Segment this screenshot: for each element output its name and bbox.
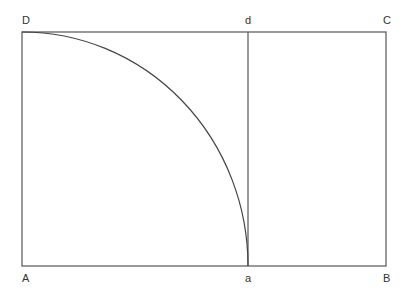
label-A: A: [22, 272, 30, 284]
label-C: C: [383, 14, 391, 26]
label-a: a: [245, 272, 252, 284]
rectangle-abcd: [22, 32, 386, 266]
label-d: d: [245, 14, 251, 26]
diagram-canvas: D d C A a B: [0, 0, 407, 296]
arc-da: [22, 32, 248, 266]
label-D: D: [22, 14, 30, 26]
label-B: B: [383, 272, 390, 284]
